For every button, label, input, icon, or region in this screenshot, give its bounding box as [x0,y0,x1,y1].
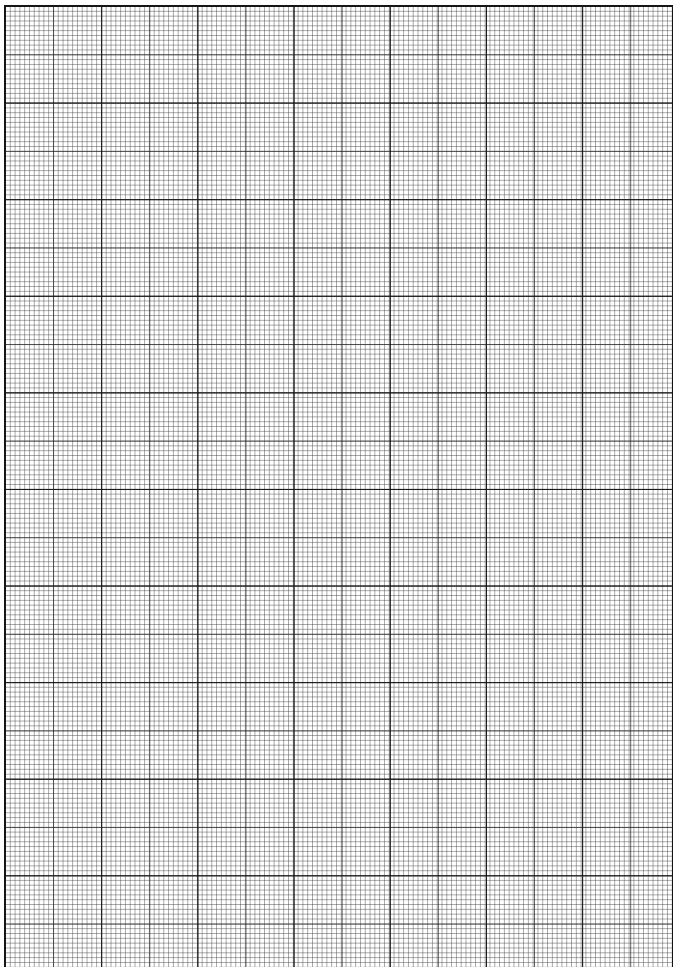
graph-paper-grid [4,5,673,967]
